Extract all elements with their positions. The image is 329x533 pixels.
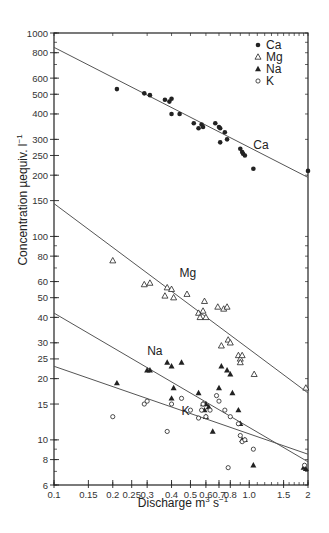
- na-regression-line: [54, 313, 308, 462]
- na-data-point: [250, 462, 256, 467]
- x-tick-label: 1.0: [243, 489, 256, 500]
- y-tick-label: 30: [37, 337, 48, 348]
- k-data-point: [145, 399, 149, 403]
- y-tick-label: 20: [37, 373, 48, 384]
- na-data-point: [114, 380, 120, 385]
- legend-marker-mg: [255, 54, 261, 59]
- k-data-point: [214, 394, 218, 398]
- y-tick-label: 150: [32, 195, 48, 206]
- chart: 6810152025304050608010015020025030040050…: [0, 0, 329, 533]
- legend-marker-ca: [256, 43, 261, 48]
- y-tick-label: 15: [37, 399, 48, 410]
- mg-data-point: [224, 304, 230, 309]
- ca-data-point: [115, 87, 120, 92]
- series-labels: CaMgNaK: [147, 138, 269, 419]
- mg-data-point: [215, 304, 221, 309]
- mg-data-point: [171, 294, 177, 299]
- y-tick-label: 25: [37, 353, 48, 364]
- y-tick-label: 300: [32, 134, 48, 145]
- ca-data-point: [213, 121, 218, 126]
- ca-data-point: [243, 153, 248, 158]
- na-data-point: [218, 363, 224, 368]
- y-tick-label: 10: [37, 434, 48, 445]
- ca-data-point: [169, 112, 174, 117]
- na-data-point: [171, 385, 177, 390]
- x-tick-label: 0.2: [106, 489, 119, 500]
- mg-data-point: [164, 284, 170, 289]
- legend-label-k: K: [266, 74, 274, 88]
- na-data-point: [164, 359, 170, 364]
- mg-data-point: [201, 298, 207, 303]
- na-data-point: [216, 385, 222, 390]
- k-data-point: [243, 438, 247, 442]
- na-data-point: [196, 390, 202, 395]
- y-tick-label: 40: [37, 312, 48, 323]
- ca-data-point: [169, 96, 174, 101]
- ca-data-point: [225, 137, 230, 142]
- ca-data-point: [218, 126, 223, 131]
- na-data-point: [179, 359, 185, 364]
- mg-data-point: [147, 280, 153, 285]
- ca-data-point: [191, 121, 196, 126]
- na-data-point: [210, 428, 216, 433]
- y-tick-label: 100: [32, 231, 48, 242]
- ca-data-point: [251, 167, 256, 172]
- k-data-point: [228, 415, 232, 419]
- y-tick-label: 50: [37, 292, 48, 303]
- k-data-point: [165, 429, 169, 433]
- series-label-na: Na: [147, 344, 163, 358]
- k-data-point: [236, 422, 240, 426]
- k-data-point: [199, 408, 203, 412]
- y-tick-label: 400: [32, 108, 48, 119]
- mg-data-point: [110, 257, 116, 262]
- k-data-point: [251, 447, 255, 451]
- x-axis-title: Discharge m3 s−1: [138, 495, 229, 510]
- k-data-point: [201, 402, 205, 406]
- data-points: [110, 87, 311, 471]
- y-tick-label: 200: [32, 170, 48, 181]
- y-axis-title: Concentration µequiv. l−1: [15, 134, 30, 266]
- k-data-point: [217, 399, 221, 403]
- ca-data-point: [201, 125, 206, 130]
- y-axis: 6810152025304050608010015020025030040050…: [27, 28, 308, 491]
- ca-data-point: [223, 130, 228, 135]
- na-data-point: [235, 407, 241, 412]
- na-data-point: [169, 395, 175, 400]
- mg-data-point: [141, 281, 147, 286]
- x-tick-label: 2: [305, 489, 310, 500]
- mg-data-point: [251, 371, 257, 376]
- k-data-point: [204, 415, 208, 419]
- x-tick-label: 1.5: [277, 489, 290, 500]
- series-label-mg: Mg: [180, 266, 197, 280]
- mg-data-point: [184, 291, 190, 296]
- legend: CaMgNaK: [255, 38, 283, 88]
- ca-data-point: [196, 126, 201, 131]
- ca-data-point: [148, 93, 153, 98]
- y-tick-label: 800: [32, 47, 48, 58]
- legend-marker-na: [255, 66, 261, 71]
- ca-data-point: [218, 140, 223, 145]
- ca-data-point: [306, 169, 311, 174]
- k-data-point: [169, 402, 173, 406]
- mg-data-point: [162, 293, 168, 298]
- k-data-point: [196, 416, 200, 420]
- k-data-point: [223, 408, 227, 412]
- series-label-ca: Ca: [253, 138, 269, 152]
- ca-data-point: [142, 91, 147, 96]
- y-tick-label: 600: [32, 73, 48, 84]
- y-tick-label: 80: [37, 251, 48, 262]
- ca-data-point: [177, 112, 182, 117]
- k-data-point: [226, 466, 230, 470]
- ca-data-point: [163, 97, 168, 102]
- mg-data-point: [218, 343, 224, 348]
- legend-marker-k: [256, 79, 260, 83]
- y-tick-label: 60: [37, 276, 48, 287]
- k-data-point: [302, 463, 306, 467]
- series-label-k: K: [182, 404, 190, 418]
- y-tick-label: 1000: [27, 28, 48, 39]
- k-data-point: [208, 408, 212, 412]
- y-tick-label: 8: [43, 454, 48, 465]
- na-data-point: [229, 390, 235, 395]
- k-data-point: [238, 433, 242, 437]
- mg-data-point: [200, 308, 206, 313]
